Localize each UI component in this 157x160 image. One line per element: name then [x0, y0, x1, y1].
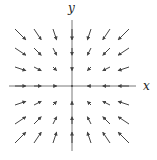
vector-arrow-icon [118, 67, 129, 71]
vector-arrow-icon [103, 132, 110, 143]
vector-field-diagram: x y [0, 0, 157, 160]
vector-arrow-icon [118, 48, 129, 55]
vector-arrow-icon [87, 117, 91, 124]
vector-arrow-icon [34, 101, 41, 105]
y-axis-label: y [67, 1, 75, 15]
vector-arrow-icon [118, 117, 129, 124]
vector-arrow-icon [87, 132, 91, 143]
vector-arrow-icon [53, 67, 57, 71]
vector-arrow-icon [103, 101, 110, 105]
vector-arrow-icon [53, 48, 57, 55]
vector-arrow-icon [15, 117, 26, 124]
vector-arrow-icon [118, 132, 129, 143]
vector-arrow-icon [15, 48, 26, 55]
vector-arrow-icon [53, 132, 57, 143]
vector-arrow-icon [53, 101, 57, 105]
vector-arrow-icon [87, 29, 91, 40]
vector-arrow-icon [15, 29, 26, 40]
vector-arrow-icon [53, 117, 57, 124]
vector-arrow-icon [87, 101, 91, 105]
vector-arrow-icon [103, 48, 110, 55]
vector-arrow-icon [103, 67, 110, 71]
vector-arrow-icon [15, 67, 26, 71]
vector-arrow-icon [118, 101, 129, 105]
vector-arrow-icon [34, 117, 41, 124]
vector-arrow-icon [15, 101, 26, 105]
vector-arrow-icon [34, 29, 41, 40]
vector-arrow-icon [118, 29, 129, 40]
vector-arrow-icon [53, 29, 57, 40]
x-axis-label: x [143, 79, 150, 93]
vector-arrow-icon [34, 132, 41, 143]
vector-arrow-icon [87, 67, 91, 71]
vector-arrow-icon [34, 48, 41, 55]
vector-arrow-icon [71, 85, 73, 87]
vector-arrow-icon [15, 132, 26, 143]
vector-arrow-icon [34, 67, 41, 71]
vector-arrow-icon [103, 29, 110, 40]
vector-arrow-icon [103, 117, 110, 124]
vector-arrow-icon [87, 48, 91, 55]
